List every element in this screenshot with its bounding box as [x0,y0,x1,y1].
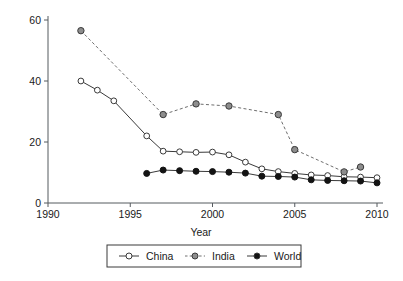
data-point [308,177,314,183]
legend-label-china: China [146,250,174,262]
x-tick-label: 2000 [201,208,225,220]
data-point [226,169,232,175]
chart-container: 19901995200020052010 0204060 Year ChinaI… [0,0,403,281]
x-tick-label: 1990 [36,208,60,220]
data-point [357,164,363,170]
data-point [210,149,216,155]
data-point [210,169,216,175]
legend-label-india: India [212,250,235,262]
data-point [341,169,347,175]
data-point [226,103,232,109]
x-axis-title: Year [190,226,212,238]
legend-marker-world [254,253,260,259]
x-tick-label: 2010 [365,208,389,220]
x-tick-label: 2005 [283,208,307,220]
data-point [144,133,150,139]
data-point [292,146,298,152]
y-axis-ticks: 0204060 [29,14,48,209]
data-point [358,178,364,184]
data-series [78,27,380,185]
data-point [341,178,347,184]
y-tick-label: 60 [29,14,41,26]
series-line-india [81,31,361,172]
data-point [160,167,166,173]
data-point [243,159,249,165]
axis-spine [48,16,383,203]
data-point [292,174,298,180]
y-tick-label: 0 [35,197,41,209]
y-tick-label: 40 [29,75,41,87]
data-point [242,170,248,176]
x-axis-ticks: 19901995200020052010 [36,203,389,220]
data-point [111,98,117,104]
data-point [144,170,150,176]
legend: ChinaIndiaWorld [107,245,301,267]
data-point [177,168,183,174]
data-point [325,177,331,183]
data-point [226,152,232,158]
legend-marker-china [126,253,132,259]
data-point [160,148,166,154]
data-point [374,180,380,186]
data-point [94,87,100,93]
y-tick-label: 20 [29,136,41,148]
x-tick-label: 1995 [119,208,143,220]
data-point [193,168,199,174]
data-point [275,173,281,179]
legend-marker-india [192,253,198,259]
data-point [193,149,199,155]
data-point [177,149,183,155]
series-line-china [81,81,377,178]
axes [48,16,383,203]
data-point [193,101,199,107]
data-point [78,27,84,33]
data-point [78,78,84,84]
series-markers-china [78,78,380,180]
legend-label-world: World [274,250,301,262]
data-point [259,166,265,172]
line-chart: 19901995200020052010 0204060 Year ChinaI… [0,0,403,281]
data-point [275,111,281,117]
data-point [160,111,166,117]
data-point [259,173,265,179]
